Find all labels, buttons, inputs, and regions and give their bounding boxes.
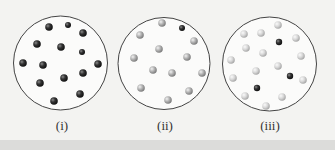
particle-dark [36,79,44,87]
particle-dark [94,60,102,68]
particle-light [130,54,138,62]
particle-light [190,37,198,45]
particle-dark [79,69,87,77]
particle-dark [287,73,293,79]
particle-pale [257,29,265,37]
particle-dark [57,43,65,51]
particle-pale [274,21,282,29]
container-circle [223,17,317,111]
panel-label-i: (i) [32,118,92,134]
panel-label-ii: (ii) [135,118,195,134]
particle-dark [79,49,85,55]
particle-dark [254,85,260,91]
particle-light [168,69,176,77]
panel-label-iii: (iii) [240,118,300,134]
particle-dark [19,59,27,67]
particle-dark [45,23,53,31]
particle-dark [76,90,84,98]
particle-light [155,45,163,53]
particle-pale [274,62,282,70]
particle-light [164,96,172,104]
particle-pale [241,92,249,100]
bottom-border-strip [0,140,335,150]
particle-light [149,66,157,74]
particle-dark [79,29,87,37]
particle-light [136,31,144,39]
particle-dark [179,25,185,31]
particle-pale [299,76,307,84]
particle-dark [276,39,282,45]
particle-dark [50,97,58,105]
particle-light [198,69,206,77]
particle-pale [229,74,237,82]
particle-pale [242,44,250,52]
container-circle [14,16,108,110]
panel-iii [223,17,317,111]
particle-pale [252,67,260,75]
particle-dark [65,22,71,28]
particle-light [137,84,145,92]
particle-dark [39,61,47,69]
particle-light [185,87,193,95]
particle-pale [240,30,248,38]
particle-pale [278,93,286,101]
particle-pale [262,102,270,110]
particle-light [158,19,166,27]
particle-pale [227,56,235,64]
particle-diagram: (i) (ii) (iii) [0,0,335,140]
panel-ii [118,18,210,110]
particle-dark [33,40,41,48]
particle-pale [297,52,305,60]
container-circle [118,18,210,110]
particle-pale [259,49,267,57]
particle-pale [292,34,300,42]
particle-light [183,53,191,61]
particle-dark [60,74,68,82]
panel-i [14,16,108,110]
